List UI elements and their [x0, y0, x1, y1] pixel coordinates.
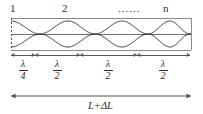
- dimension-arrowhead: [137, 53, 140, 57]
- standing-wave-upper-lobe: [11, 21, 191, 34]
- dimension-arrowhead: [80, 53, 83, 57]
- dimension-arrowhead: [35, 53, 38, 57]
- standing-wave-diagram: 1 2 n ...... λ4λ2λ2λ2 L+ΔL: [0, 0, 203, 114]
- total-length-dimension: [11, 94, 191, 99]
- fraction-denominator: 2: [153, 71, 173, 82]
- fraction-numerator: λ: [47, 59, 67, 70]
- fraction-denominator: 2: [47, 71, 67, 82]
- dimension-arrowhead: [32, 53, 35, 57]
- mode-label-2: 2: [62, 3, 68, 14]
- total-length-right-arrowhead: [187, 94, 192, 99]
- fraction-denominator: 2: [98, 71, 118, 82]
- dimension-arrowhead: [77, 53, 80, 57]
- standing-wave-lower-lobe: [11, 34, 191, 47]
- wavelength-fraction-4: λ2: [153, 59, 173, 81]
- mode-label-1: 1: [10, 3, 16, 14]
- fraction-denominator: 4: [13, 71, 33, 82]
- mode-label-n: n: [163, 3, 169, 14]
- dimension-arrowhead: [11, 53, 14, 57]
- fraction-numerator: λ: [13, 59, 33, 70]
- mode-ellipsis-label: ......: [118, 3, 141, 14]
- wavelength-fraction-2: λ2: [47, 59, 67, 81]
- segment-dimension-row: [11, 53, 190, 57]
- fraction-numerator: λ: [153, 59, 173, 70]
- total-length-left-arrowhead: [11, 94, 16, 99]
- wavelength-fraction-3: λ2: [98, 59, 118, 81]
- fraction-numerator: λ: [98, 59, 118, 70]
- dimension-arrowhead: [187, 53, 190, 57]
- wavelength-fraction-1: λ4: [13, 59, 33, 81]
- dimension-arrowhead: [134, 53, 137, 57]
- total-length-label: L+ΔL: [88, 100, 113, 111]
- diagram-canvas: [0, 0, 203, 114]
